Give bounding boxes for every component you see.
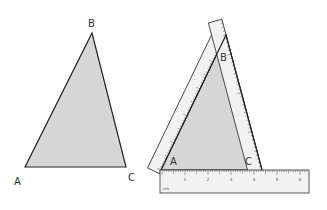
left-label-b: B [88, 18, 95, 29]
ruler-num-3: 3 [230, 177, 233, 182]
ruler-unit: cm [163, 186, 169, 191]
geometry-figure: B A C [0, 0, 327, 210]
right-label-c: C [245, 156, 252, 167]
ruler-num-4: 4 [253, 177, 256, 182]
right-label-b: B [220, 52, 227, 63]
ruler-num-5: 5 [276, 177, 279, 182]
left-label-c: C [128, 172, 135, 183]
ruler-num-6: 6 [299, 177, 302, 182]
right-label-a: A [170, 156, 177, 167]
left-triangle [25, 33, 126, 167]
bottom-ruler: 1 2 3 4 5 6 cm [160, 170, 309, 193]
left-label-a: A [14, 176, 21, 187]
ruler-num-2: 2 [207, 177, 210, 182]
ruler-num-1: 1 [184, 177, 187, 182]
